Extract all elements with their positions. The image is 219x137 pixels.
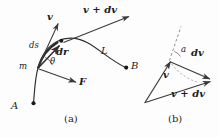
point-B-dot	[124, 66, 128, 70]
panel-a-graphics	[31, 17, 129, 106]
caption-panel-b: (b)	[168, 114, 182, 124]
vector-v-plus-dv-a	[64, 17, 130, 43]
vector-dv-b	[171, 62, 210, 79]
label-dv-panel-b: dv	[191, 48, 204, 58]
label-F-force: F	[79, 77, 86, 87]
point-A-dot	[31, 101, 35, 105]
label-v-panel-a: v	[47, 12, 53, 22]
vector-v-b	[145, 62, 171, 103]
point-dr-tip	[59, 39, 63, 43]
label-alpha-angle: a	[181, 45, 186, 54]
label-m-mass: m	[19, 62, 27, 71]
label-B-point: B	[131, 61, 138, 71]
physics-figure: v v + dv ds dr θ m F L A B (a) a dv v v …	[0, 0, 219, 137]
label-v-plus-dv-panel-a: v + dv	[83, 5, 117, 15]
label-ds: ds	[29, 41, 39, 50]
caption-panel-a: (a)	[64, 114, 78, 124]
figure-vector-canvas	[0, 0, 219, 137]
angle-alpha-arc	[174, 52, 180, 57]
label-v-panel-b: v	[163, 70, 169, 80]
label-L-path: L	[101, 46, 108, 56]
vector-F	[39, 69, 76, 82]
label-v-plus-dv-panel-b: v + dv	[171, 89, 205, 99]
label-theta-angle: θ	[50, 57, 55, 66]
interior-sweep-arc	[172, 64, 198, 82]
label-A-point: A	[11, 101, 18, 111]
label-dr: dr	[56, 47, 68, 57]
